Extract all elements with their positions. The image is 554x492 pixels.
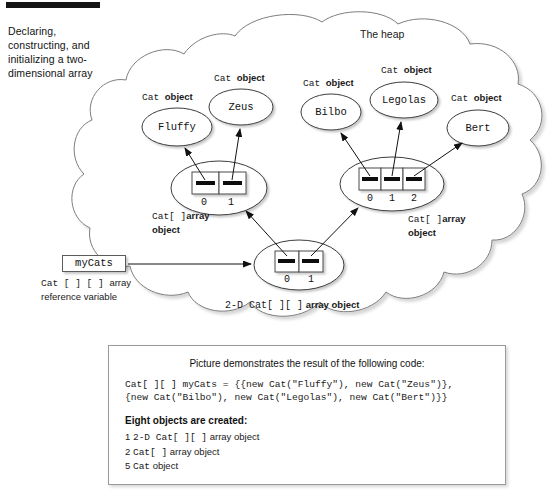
twod-array-label-text: array object: [306, 299, 360, 310]
list-item-count: 5: [125, 460, 130, 471]
right-array-index-2: 2: [411, 193, 417, 204]
right-array-index-0: 0: [367, 193, 373, 204]
twod-array-object: [254, 240, 344, 290]
code-line-2: {new Cat("Bilbo"), new Cat("Legolas"), n…: [125, 392, 447, 403]
list-item: 1 2-D Cat[ ][ ] array object: [125, 430, 259, 445]
twod-array-index-0: 0: [284, 274, 290, 285]
caption-word-object: object: [404, 64, 432, 75]
panel-summary: Eight objects are created:: [125, 415, 247, 426]
caption-word-cat: Cat: [214, 73, 237, 84]
cat-name-bert: Bert: [447, 122, 509, 134]
caption-word-cat: Cat: [303, 78, 326, 89]
code-line-1: Cat[ ][ ] myCats = {{new Cat("Fluffy"), …: [125, 379, 453, 390]
left-cat-array-object: [171, 161, 267, 215]
left-array-label: Cat[ ]array object: [152, 210, 209, 236]
twod-array-cells: [275, 251, 323, 272]
caption-word-cat: Cat: [381, 65, 404, 76]
list-item: 2 Cat[ ] array object: [125, 445, 259, 460]
mycats-variable-caption: Cat [ ] [ ] array reference variable: [41, 277, 171, 303]
mycats-caption-line2: reference variable: [41, 291, 117, 302]
list-item-text: array object: [167, 446, 219, 457]
caption-cat-object-zeus: Cat object: [214, 72, 265, 84]
twod-array-index-1: 1: [308, 274, 314, 285]
heap-label: The heap: [360, 28, 404, 40]
list-item-text: array object: [207, 431, 259, 442]
cat-name-fluffy: Fluffy: [142, 121, 212, 133]
list-item-count: 1: [125, 431, 130, 442]
panel-object-list: 1 2-D Cat[ ][ ] array object 2 Cat[ ] ar…: [125, 430, 259, 474]
twod-array-label: 2-D Cat[ ][ ] array object: [225, 299, 360, 311]
left-array-label-type: Cat[ ]: [152, 211, 186, 222]
panel-code-block: Cat[ ][ ] myCats = {{new Cat("Fluffy"), …: [125, 378, 453, 404]
list-item-count: 2: [125, 446, 130, 457]
caption-word-object: object: [474, 92, 502, 103]
caption-word-cat: Cat: [142, 92, 165, 103]
right-array-label-object: object: [408, 227, 436, 238]
left-array-index-0: 0: [201, 197, 207, 208]
left-array-cells: [192, 172, 246, 194]
code-explanation-panel: Picture demonstrates the result of the f…: [108, 345, 506, 485]
twod-array-label-type: 2-D Cat[ ][ ]: [225, 300, 303, 311]
cat-name-bilbo: Bilbo: [301, 106, 361, 118]
left-array-label-object: object: [152, 224, 180, 235]
left-array-label-array: array: [186, 210, 209, 221]
caption-cat-object-bilbo: Cat object: [303, 77, 354, 89]
caption-cat-object-legolas: Cat object: [381, 64, 432, 76]
cat-name-zeus: Zeus: [209, 101, 273, 113]
mycats-caption-array: array: [109, 277, 131, 288]
caption-cat-object-bert: Cat object: [451, 92, 502, 104]
right-array-label-type: Cat[ ]: [408, 214, 442, 225]
mycats-variable-name: myCats: [63, 256, 125, 271]
caption-word-object: object: [165, 91, 193, 102]
list-item: 5 Cat object: [125, 459, 259, 474]
figure-root: Declaring, constructing, and initializin…: [0, 0, 554, 492]
list-item-type: Cat: [133, 461, 150, 472]
mycats-variable-box[interactable]: myCats: [62, 255, 126, 272]
list-item-text: object: [150, 460, 178, 471]
panel-title: Picture demonstrates the result of the f…: [109, 358, 505, 369]
right-array-label-array: array: [442, 213, 465, 224]
caption-word-object: object: [237, 72, 265, 83]
cat-name-legolas: Legolas: [370, 94, 438, 106]
caption-word-object: object: [326, 77, 354, 88]
right-array-label: Cat[ ]array object: [408, 213, 465, 239]
list-item-type: Cat[ ]: [133, 447, 167, 458]
mycats-caption-type: Cat [ ] [ ]: [41, 278, 109, 289]
right-array-index-1: 1: [389, 193, 395, 204]
left-array-index-1: 1: [228, 197, 234, 208]
right-array-cells: [359, 168, 425, 190]
caption-cat-object-fluffy: Cat object: [142, 91, 193, 103]
caption-word-cat: Cat: [451, 93, 474, 104]
list-item-type: 2-D Cat[ ][ ]: [133, 432, 207, 443]
